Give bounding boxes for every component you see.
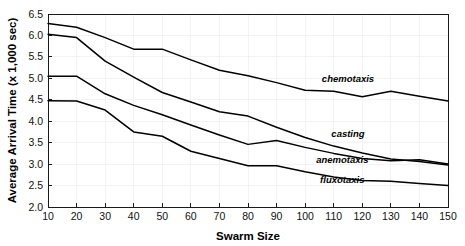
y-tick-label: 2.0 bbox=[28, 201, 43, 213]
x-tick-labels: 102030405060708090100110120130140150 bbox=[42, 210, 457, 222]
y-tick-label: 4.0 bbox=[28, 115, 43, 127]
y-tick-label: 5.5 bbox=[28, 50, 43, 62]
x-tick-label: 80 bbox=[242, 210, 254, 222]
x-tick-label: 90 bbox=[271, 210, 283, 222]
y-axis-title: Average Arrival Time (x 1,000 sec) bbox=[6, 18, 18, 204]
annotation-chemotaxis: chemotaxis bbox=[322, 73, 374, 84]
y-tick-label: 2.5 bbox=[28, 179, 43, 191]
x-tick-label: 40 bbox=[128, 210, 140, 222]
x-tick-label: 60 bbox=[185, 210, 197, 222]
x-tick-label: 120 bbox=[354, 210, 372, 222]
chart-page: 102030405060708090100110120130140150 2.0… bbox=[0, 0, 465, 246]
x-tick-label: 30 bbox=[99, 210, 111, 222]
line-chart: 102030405060708090100110120130140150 2.0… bbox=[0, 0, 465, 246]
x-tick-label: 50 bbox=[156, 210, 168, 222]
y-tick-label: 4.5 bbox=[28, 93, 43, 105]
y-tick-label: 3.0 bbox=[28, 158, 43, 170]
y-tick-label: 5.0 bbox=[28, 72, 43, 84]
annotation-casting: casting bbox=[331, 128, 364, 139]
annotation-fluxotaxis: fluxotaxis bbox=[320, 174, 364, 185]
y-tick-label: 6.0 bbox=[28, 29, 43, 41]
x-tick-label: 70 bbox=[214, 210, 226, 222]
x-tick-label: 110 bbox=[325, 210, 342, 222]
x-tick-label: 140 bbox=[411, 210, 429, 222]
x-tick-label: 10 bbox=[42, 210, 54, 222]
x-axis-title: Swarm Size bbox=[216, 230, 280, 242]
x-tick-label: 130 bbox=[382, 210, 400, 222]
annotation-anemotaxis: anemotaxis bbox=[316, 154, 368, 165]
y-tick-label: 3.5 bbox=[28, 136, 43, 148]
x-tick-label: 150 bbox=[439, 210, 457, 222]
y-tick-label: 6.5 bbox=[28, 8, 43, 20]
x-tick-label: 100 bbox=[296, 210, 314, 222]
x-tick-label: 20 bbox=[71, 210, 83, 222]
